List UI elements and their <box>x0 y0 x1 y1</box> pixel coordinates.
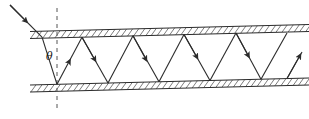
bottom-wall-outer-edge <box>30 85 309 92</box>
arrowhead-exit-ray <box>287 55 301 79</box>
reflected-ray-path <box>42 33 302 84</box>
arrowhead-segment-4 <box>236 33 249 57</box>
bottom-wall <box>28 72 309 96</box>
arrowhead-segment-0 <box>57 60 70 84</box>
arrowhead-segment-1 <box>82 37 96 61</box>
top-wall <box>28 20 309 42</box>
arrowhead-segment-2 <box>133 36 147 61</box>
diagram-canvas: θ <box>0 0 309 119</box>
top-wall-inner-edge <box>30 32 309 39</box>
top-wall-outer-edge <box>30 25 309 32</box>
incident-ray-arrowhead <box>10 5 27 22</box>
incident-ray <box>10 5 42 37</box>
ray-direction-arrowheads <box>57 33 301 84</box>
optical-fiber-total-internal-reflection-diagram: θ <box>0 0 309 119</box>
arrowhead-segment-3 <box>184 34 198 58</box>
theta-angle-label: θ <box>46 50 53 63</box>
